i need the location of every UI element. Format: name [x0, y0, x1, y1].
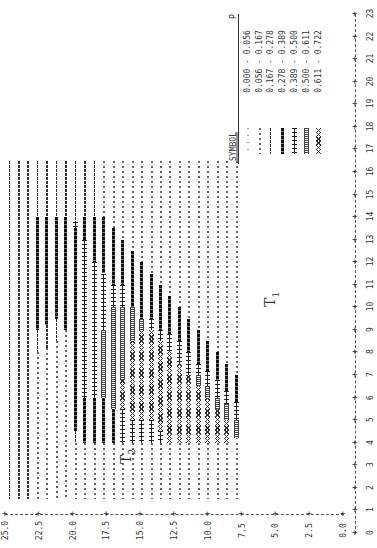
plot-segment-level-3: [112, 228, 115, 284]
legend-range-1: 0.056 - 0.167: [255, 22, 264, 102]
plot-segment-level-3: [102, 398, 105, 443]
plot-segment-level-1: [217, 161, 219, 353]
plot-segment-level-2: [94, 161, 96, 217]
plot-segment-level-5: [120, 307, 125, 379]
plot-column: [111, 0, 116, 548]
plot-segment-level-2: [75, 431, 77, 442]
plot-segment-level-4: [234, 402, 239, 420]
plot-segment-level-6: [177, 364, 182, 443]
plot-segment-level-1: [160, 161, 162, 285]
plot-segment-level-6: [120, 380, 125, 409]
plot-segment-level-6: [139, 330, 144, 420]
plot-segment-level-1: [113, 443, 115, 499]
legend-symbol-3: [281, 128, 284, 154]
plot-segment-level-1: [169, 161, 171, 296]
plot-segment-level-4: [224, 391, 229, 405]
plot-segment-level-1: [207, 443, 209, 499]
plot-segment-level-1: [160, 443, 162, 499]
plot-segment-level-4: [205, 371, 210, 387]
plot-segment-level-1: [103, 161, 105, 217]
plot-segment-level-3: [178, 307, 181, 341]
plot-segment-level-1: [188, 443, 190, 499]
plot-column: [215, 0, 220, 548]
plot-segment-level-2: [18, 161, 20, 499]
plot-segment-level-1: [122, 161, 124, 240]
plot-segment-level-1: [217, 443, 219, 499]
plot-segment-level-4: [111, 285, 116, 308]
plot-segment-level-1: [179, 161, 181, 308]
plot-segment-level-3: [74, 228, 77, 431]
legend-range-5: 0.500 - 0.611: [302, 22, 311, 102]
plot-segment-level-1: [151, 161, 153, 274]
plot-segment-level-6: [196, 386, 201, 442]
plot-column: [63, 0, 68, 548]
legend-header-symbol: SYMBOL: [229, 127, 238, 167]
plot-segment-level-5: [205, 386, 210, 397]
plot-column: [54, 0, 59, 548]
plot-column: [149, 0, 154, 548]
plot-column: [25, 0, 30, 548]
plot-segment-level-4: [186, 352, 191, 375]
plot-segment-level-1: [132, 161, 134, 251]
plot-segment-level-5: [101, 330, 106, 398]
plot-segment-level-4: [82, 240, 87, 398]
plot-segment-level-1: [226, 443, 228, 499]
plot-segment-level-2: [27, 161, 29, 499]
legend-header-value: P: [229, 12, 238, 22]
plot-segment-level-6: [215, 409, 220, 443]
plot-segment-level-4: [177, 341, 182, 364]
plot-segment-level-1: [179, 443, 181, 499]
plot-column: [139, 0, 144, 548]
plot-segment-level-6: [130, 341, 135, 420]
t1-axis-label: T1: [262, 292, 281, 307]
plot-segment-level-2: [65, 161, 67, 217]
plot-column: [44, 0, 49, 548]
plot-segment-level-1: [65, 330, 67, 499]
legend-range-3: 0.278 - 0.389: [278, 22, 287, 102]
plot-segment-level-3: [168, 296, 171, 334]
plot-segment-level-3: [150, 274, 153, 319]
plot-segment-level-2: [37, 161, 39, 217]
plot-segment-level-4: [92, 262, 97, 397]
legend-symbol-2: [270, 128, 272, 154]
plot-segment-level-1: [226, 161, 228, 364]
plot-segment-level-3: [83, 398, 86, 443]
plot-segment-level-1: [207, 161, 209, 342]
plot-segment-level-3: [93, 217, 96, 262]
plot-segment-level-5: [139, 319, 144, 330]
plot-segment-level-2: [56, 161, 58, 217]
legend-range-0: 0.000 - 0.056: [243, 22, 252, 102]
plot-segment-level-3: [235, 375, 238, 402]
plot-segment-level-3: [45, 217, 48, 325]
plot-segment-level-3: [36, 217, 39, 330]
plot-column: [186, 0, 191, 548]
plot-segment-level-1: [84, 443, 86, 499]
plot-column: [16, 0, 21, 548]
plot-segment-level-4: [120, 285, 125, 308]
legend-symbol-6: [316, 128, 321, 154]
plot-column: [35, 0, 40, 548]
plot-segment-level-3: [206, 341, 209, 370]
legend-range-2: 0.167 - 0.278: [266, 22, 275, 102]
plot-segment-level-1: [236, 161, 238, 375]
plot-segment-level-1: [236, 443, 238, 499]
legend-symbol-5: [304, 128, 309, 154]
t2-axis-label: T2: [118, 449, 137, 464]
plot-segment-level-1: [113, 161, 115, 229]
plot-segment-level-6: [205, 398, 210, 443]
plot-segment-level-4: [149, 319, 154, 330]
plot-segment-level-2: [37, 330, 39, 353]
plot-column: [205, 0, 210, 548]
plot-segment-level-1: [151, 443, 153, 499]
plot-segment-level-4: [158, 330, 163, 341]
plot-column: [177, 0, 182, 548]
plot-segment-level-2: [46, 325, 48, 348]
plot-segment-level-6: [167, 352, 172, 442]
plot-column: [224, 0, 229, 548]
plot-segment-level-6: [186, 375, 191, 443]
plot-segment-level-2: [56, 319, 58, 342]
plot-segment-level-3: [216, 352, 219, 379]
plot-column: [196, 0, 201, 548]
plot-segment-level-1: [56, 341, 58, 499]
plot-segment-level-2: [9, 161, 11, 499]
